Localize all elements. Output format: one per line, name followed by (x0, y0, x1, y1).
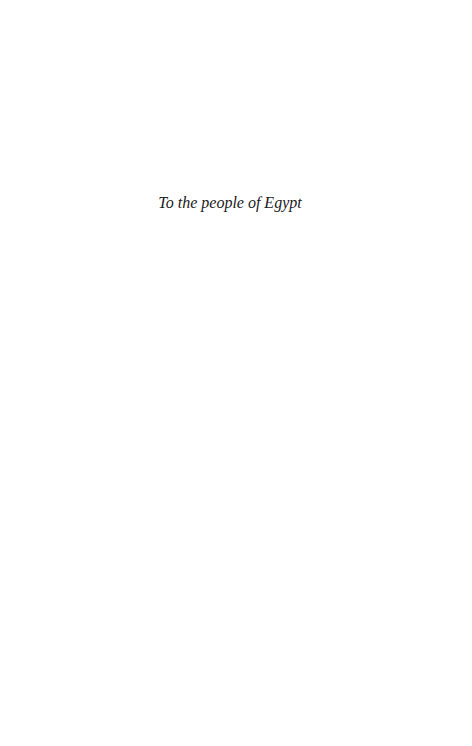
book-page: To the people of Egypt (0, 0, 472, 746)
dedication-text: To the people of Egypt (0, 193, 472, 213)
